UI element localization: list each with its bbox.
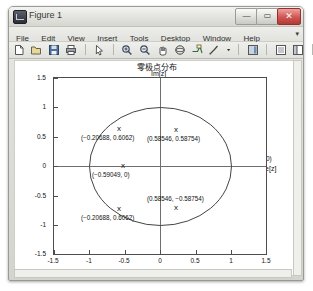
link-dropdown-icon[interactable]: [226, 44, 231, 56]
pole-marker-3: x: [118, 162, 128, 170]
pole-marker-5: x: [114, 205, 124, 213]
x-tick-label-4: 0.5: [185, 257, 205, 264]
y-tick-0: [54, 78, 58, 79]
maximize-icon: ▭: [257, 11, 278, 21]
y-tick-1: [54, 107, 58, 108]
y-tick-label-2: 0.5: [26, 133, 46, 140]
pole-marker-1: x: [114, 125, 124, 133]
x-tick-5: [231, 250, 232, 254]
y-tick-2: [54, 137, 58, 138]
brush-icon[interactable]: [208, 44, 220, 56]
close-button[interactable]: ✕: [277, 8, 301, 25]
edit-plot-pointer-icon[interactable]: [93, 44, 105, 56]
y-tick-label-4: -0.5: [26, 192, 46, 199]
rotate-3d-icon[interactable]: [174, 44, 186, 56]
y-tick-5: [54, 225, 58, 226]
unit-circle: [54, 78, 268, 256]
x-tick-3: [160, 250, 161, 254]
y-tick-4: [54, 196, 58, 197]
y-axis-label: Im[z]: [151, 70, 166, 77]
insert-colorbar-icon[interactable]: [247, 44, 259, 56]
x-tick-label-6: 1.5: [256, 257, 276, 264]
pole-marker-4: x: [171, 204, 181, 212]
maximize-button[interactable]: ▭: [256, 8, 279, 25]
x-tick-label-1: -1: [79, 257, 99, 264]
plot-browser-icon[interactable]: [292, 44, 304, 56]
menu-bar: File Edit View Insert Tools Desktop Wind…: [9, 27, 303, 42]
vertical-scrollbar[interactable]: [293, 60, 302, 276]
x-tick-label-5: 1: [221, 257, 241, 264]
toolbar-separator-4: [266, 44, 267, 55]
matlab-figure-icon: [13, 10, 27, 24]
x-tick-4: [196, 250, 197, 254]
toolbar-separator-2: [113, 44, 114, 55]
close-icon: ✕: [278, 11, 300, 21]
figure-window: Figure 1 — ▭ ✕ File Edit View Insert Too…: [8, 6, 304, 281]
minimize-icon: —: [236, 11, 257, 21]
x-tick-6: [266, 250, 267, 254]
minimize-button[interactable]: —: [235, 8, 258, 25]
new-figure-icon[interactable]: [13, 44, 25, 56]
toolbar-separator-3: [238, 44, 239, 55]
pan-icon[interactable]: [156, 44, 168, 56]
title-bar: Figure 1 — ▭ ✕: [9, 7, 303, 27]
toolbar-separator-1: [85, 44, 86, 55]
y-tick-6: [54, 254, 58, 255]
x-tick-label-3: 0: [150, 257, 170, 264]
window-title: Figure 1: [29, 10, 62, 20]
pole-label-3: (−0.59049, 0): [92, 171, 130, 178]
pole-label-4: (0.58546, −0.58754): [147, 195, 204, 202]
pole-label-2: (0.58546, 0.58754): [147, 135, 200, 142]
save-figure-icon[interactable]: [48, 44, 60, 56]
chevron-down-icon[interactable]: ▾: [295, 30, 299, 38]
pole-label-1: (−0.20688, 0.6062): [81, 134, 134, 141]
x-tick-label-2: -0.5: [114, 257, 134, 264]
insert-legend-icon[interactable]: [275, 44, 287, 56]
horizontal-scrollbar[interactable]: [14, 269, 292, 278]
figure-canvas[interactable]: 零极点分布 Im[z] (1.5,0) Re[z]: [14, 60, 299, 276]
y-tick-label-0: 1.5: [26, 74, 46, 81]
y-tick-label-6: -1.5: [26, 250, 46, 257]
y-tick-label-1: 1: [26, 103, 46, 110]
y-tick-label-3: 0: [26, 162, 46, 169]
y-tick-label-5: -1: [26, 221, 46, 228]
x-tick-1: [89, 250, 90, 254]
x-tick-2: [125, 250, 126, 254]
y-tick-3: [54, 166, 58, 167]
plot-axes-box: x x x x x (−0.20688, 0.6062) (0.58546, 0…: [53, 77, 267, 255]
pole-label-5: (−0.20688, 0.6062): [81, 214, 134, 221]
print-figure-icon[interactable]: [65, 44, 77, 56]
data-cursor-icon[interactable]: [191, 44, 203, 56]
open-file-icon[interactable]: [30, 44, 42, 56]
pole-marker-2: x: [171, 126, 181, 134]
zoom-in-icon[interactable]: [121, 44, 133, 56]
toolbar: [9, 42, 303, 59]
zoom-out-icon[interactable]: [139, 44, 151, 56]
toolbar-separator-5: [312, 44, 313, 55]
x-tick-label-0: -1.5: [43, 257, 63, 264]
